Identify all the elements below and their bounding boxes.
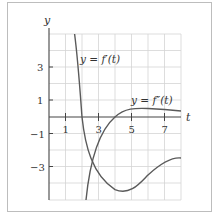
tick-label-y1: 1: [37, 95, 43, 106]
fdoubleprime-label: y = f″(t): [130, 94, 173, 106]
x-axis-label: t: [186, 111, 191, 124]
fprime-label: y = f′(t): [79, 53, 120, 65]
tick-label-x1: 1: [63, 124, 69, 135]
tick-label-x7: 7: [162, 124, 168, 135]
tick-label-y3: 3: [37, 62, 43, 73]
fdoubleprime-curve: [86, 108, 181, 200]
chart: y t y = f′(t) y = f″(t) 1 3 5 7 3 1 −1 −…: [0, 0, 218, 224]
tick-label-yn1: −1: [30, 129, 45, 140]
tick-label-x3: 3: [96, 124, 102, 135]
y-axis-label: y: [43, 14, 51, 27]
tick-label-x5: 5: [129, 124, 135, 135]
tick-label-yn3: −3: [30, 162, 45, 173]
